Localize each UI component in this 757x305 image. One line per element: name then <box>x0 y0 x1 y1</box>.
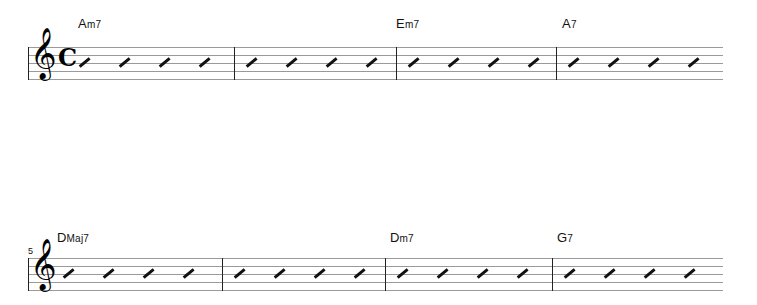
barline <box>556 47 557 80</box>
staff <box>28 47 723 80</box>
staff-system: 𝄞5DMaj7Dm7G7 <box>0 110 757 210</box>
staff-system: 𝄞CAm7Em7A7 <box>0 0 757 105</box>
chord-quality: m7 <box>405 19 419 30</box>
staff-line <box>28 55 723 56</box>
chord-root: A <box>562 16 571 31</box>
staff-line <box>28 79 723 80</box>
time-signature-common: C <box>58 46 77 70</box>
staff-system: 𝄞9CMaj7Cm7F7B♭Maj7Bm7(♭5)E7alt. <box>0 212 757 305</box>
chord-symbol: Em7 <box>396 16 419 31</box>
chord-symbol: A7 <box>562 16 577 31</box>
chord-quality: 7 <box>571 19 577 30</box>
chord-root: A <box>78 16 87 31</box>
staff-line <box>28 47 723 48</box>
barline <box>396 47 397 80</box>
chord-symbol: Am7 <box>78 16 101 31</box>
barline-start <box>28 47 29 80</box>
chord-root: E <box>396 16 405 31</box>
lead-sheet-page: 𝄞CAm7Em7A7𝄞5DMaj7Dm7G7𝄞9CMaj7Cm7F7B♭Maj7… <box>0 0 757 305</box>
treble-clef-icon: 𝄞 <box>30 30 57 75</box>
staff-line <box>28 63 723 64</box>
barline <box>234 47 235 80</box>
staff-line <box>28 71 723 72</box>
chord-quality: m7 <box>87 19 101 30</box>
